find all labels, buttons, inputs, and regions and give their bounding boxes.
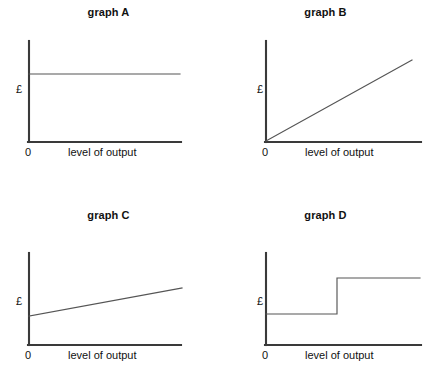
graph-b-data-line bbox=[266, 60, 412, 141]
graph-panel-d: graph D £ 0 level of output bbox=[217, 185, 434, 369]
graph-c-origin-label: 0 bbox=[25, 349, 31, 361]
four-graph-figure: graph A £ 0 level of output graph B £ 0 … bbox=[0, 0, 434, 369]
graph-panel-b: graph B £ 0 level of output bbox=[217, 0, 434, 184]
graph-d-step-line bbox=[266, 278, 420, 314]
graph-b-x-axis-label: level of output bbox=[305, 146, 374, 158]
graph-c-x-axis-label: level of output bbox=[68, 349, 137, 361]
graph-d-origin-label: 0 bbox=[262, 349, 268, 361]
graph-d-x-axis-label: level of output bbox=[305, 349, 374, 361]
graph-d-plot bbox=[217, 185, 434, 369]
graph-panel-c: graph C £ 0 level of output bbox=[0, 185, 217, 369]
graph-a-x-axis-label: level of output bbox=[68, 146, 137, 158]
graph-c-plot bbox=[0, 185, 217, 369]
graph-a-origin-label: 0 bbox=[25, 146, 31, 158]
graph-panel-a: graph A £ 0 level of output bbox=[0, 0, 217, 184]
graph-b-origin-label: 0 bbox=[262, 146, 268, 158]
graph-c-data-line bbox=[29, 288, 182, 316]
